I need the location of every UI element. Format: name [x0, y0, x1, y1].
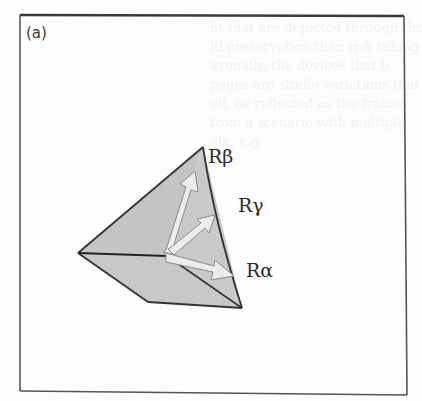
scanned-page: ht that are depicted through the ld pres…	[0, 0, 422, 401]
frame-bottom-edge	[20, 391, 407, 395]
rotation-axes-diagram: (a) Rβ Rγ Rα	[0, 0, 422, 401]
panel-label: (a)	[26, 24, 47, 42]
frame-right-edge	[404, 16, 407, 395]
pyramid-shape	[78, 147, 242, 308]
label-r-gamma: Rγ	[238, 194, 264, 216]
label-r-beta: Rβ	[208, 145, 233, 167]
frame-top-edge	[20, 15, 404, 16]
label-r-alpha: Rα	[246, 259, 273, 281]
